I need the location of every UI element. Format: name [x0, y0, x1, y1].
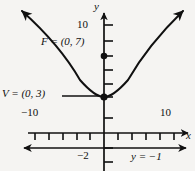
focus-label: F = (0, 7)	[41, 36, 84, 47]
y-tick-label-neg2: −2	[77, 150, 89, 161]
x-tick-label-neg10: −10	[21, 107, 38, 118]
x-axis-label: x	[186, 130, 191, 141]
focus-point	[101, 53, 108, 60]
directrix-label: y = −1	[131, 151, 162, 162]
vertex-point	[100, 93, 107, 100]
x-tick-label-10: 10	[160, 107, 171, 118]
y-tick-label-10: 10	[77, 19, 88, 30]
parabola-figure: y x 10 −2 −10 10 F = (0, 7) V = (0, 3) y…	[0, 0, 195, 171]
graph-canvas	[0, 0, 195, 171]
x-axis	[28, 133, 188, 140]
y-axis-label: y	[94, 1, 99, 12]
vertex-label: V = (0, 3)	[2, 88, 45, 99]
